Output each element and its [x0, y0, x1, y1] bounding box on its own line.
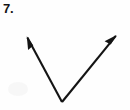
left-ray: [27, 37, 62, 102]
angle-figure: 7.: [0, 0, 130, 110]
right-ray: [62, 36, 116, 102]
angle-diagram: [0, 0, 130, 110]
